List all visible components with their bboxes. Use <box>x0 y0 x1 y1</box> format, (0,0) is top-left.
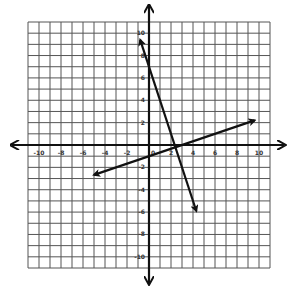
plotted-lines <box>94 40 255 211</box>
y-tick-label: -10 <box>134 253 145 260</box>
plotted-line-2 <box>94 120 255 174</box>
y-tick-label: 4 <box>141 96 145 103</box>
x-tick-label: -10 <box>34 149 45 156</box>
x-tick-label: 4 <box>191 149 195 156</box>
x-tick-label: -8 <box>58 149 65 156</box>
y-tick-label: -8 <box>138 230 145 237</box>
x-tick-label: -6 <box>80 149 87 156</box>
y-tick-label: -4 <box>138 186 145 193</box>
y-tick-label: 10 <box>137 29 145 36</box>
x-tick-label: -2 <box>124 149 131 156</box>
y-tick-label: 2 <box>141 119 145 126</box>
x-tick-label: 8 <box>235 149 239 156</box>
y-tick-label: 6 <box>141 74 145 81</box>
y-tick-label: -2 <box>138 163 145 170</box>
axes <box>12 6 284 283</box>
y-tick-label: -6 <box>138 208 145 215</box>
x-tick-label: -4 <box>102 149 109 156</box>
x-tick-label: 10 <box>255 149 263 156</box>
coordinate-plane: -10-8-6-4-20246810108642-2-4-6-8-10 <box>0 0 293 288</box>
x-tick-label: 6 <box>213 149 217 156</box>
